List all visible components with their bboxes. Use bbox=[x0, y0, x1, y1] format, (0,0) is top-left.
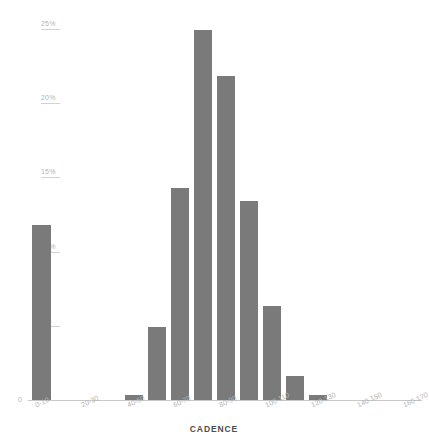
bar bbox=[217, 76, 235, 400]
bar bbox=[171, 188, 189, 400]
x-axis-title: CADENCE bbox=[0, 424, 428, 434]
bar bbox=[148, 327, 166, 400]
bar bbox=[263, 306, 281, 400]
bar-series bbox=[30, 14, 422, 400]
x-axis-labels: 0-1020-3040-5060-7080-90100-110120-13014… bbox=[30, 402, 422, 420]
bar bbox=[32, 225, 50, 400]
bar bbox=[194, 30, 212, 400]
y-axis-zero-label: 0 bbox=[18, 395, 22, 404]
bar bbox=[240, 201, 258, 400]
